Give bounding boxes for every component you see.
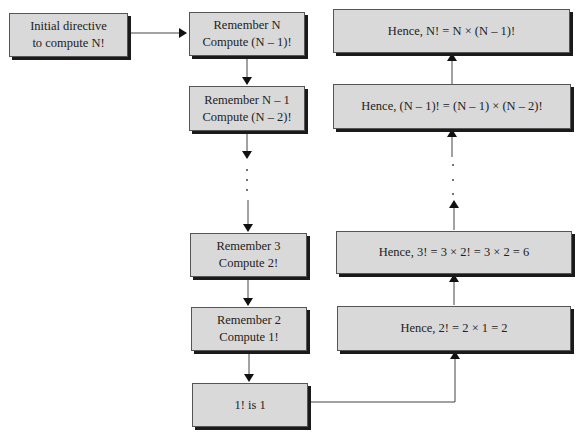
remember-3-box: Remember 3 Compute 2! bbox=[190, 233, 307, 277]
remember-2-line2: Compute 1! bbox=[219, 329, 278, 346]
hence-3-box: Hence, 3! = 3 × 2! = 3 × 2 = 6 bbox=[336, 231, 572, 274]
hence-3-text: Hence, 3! = 3 × 2! = 3 × 2 = 6 bbox=[379, 244, 530, 261]
remember-2-box: Remember 2 Compute 1! bbox=[191, 307, 307, 351]
remember-n-line2: Compute (N – 1)! bbox=[202, 34, 291, 51]
start-line2: to compute N! bbox=[32, 35, 104, 52]
hence-2-text: Hence, 2! = 2 × 1 = 2 bbox=[400, 320, 507, 337]
base-case-text: 1! is 1 bbox=[234, 397, 265, 414]
ellipsis-dots bbox=[246, 164, 454, 195]
start-box: Initial directive to compute N! bbox=[9, 13, 128, 57]
remember-n-minus-1-line1: Remember N – 1 bbox=[204, 92, 290, 109]
hence-n-box: Hence, N! = N × (N – 1)! bbox=[333, 9, 570, 53]
remember-n-line1: Remember N bbox=[214, 17, 281, 34]
connectors bbox=[0, 0, 580, 436]
remember-n-minus-1-line2: Compute (N – 2)! bbox=[202, 109, 291, 126]
remember-2-line1: Remember 2 bbox=[217, 312, 281, 329]
remember-3-line1: Remember 3 bbox=[216, 238, 280, 255]
hence-n-text: Hence, N! = N × (N – 1)! bbox=[388, 23, 515, 40]
hence-n-minus-1-text: Hence, (N – 1)! = (N – 1) × (N – 2)! bbox=[361, 98, 542, 115]
hence-n-minus-1-box: Hence, (N – 1)! = (N – 1) × (N – 2)! bbox=[333, 84, 571, 129]
remember-3-line2: Compute 2! bbox=[219, 255, 278, 272]
base-case-box: 1! is 1 bbox=[192, 383, 308, 427]
remember-n-minus-1-box: Remember N – 1 Compute (N – 2)! bbox=[189, 86, 305, 131]
start-line1: Initial directive bbox=[30, 18, 107, 35]
remember-n-box: Remember N Compute (N – 1)! bbox=[189, 12, 305, 56]
hence-2-box: Hence, 2! = 2 × 1 = 2 bbox=[337, 306, 571, 351]
